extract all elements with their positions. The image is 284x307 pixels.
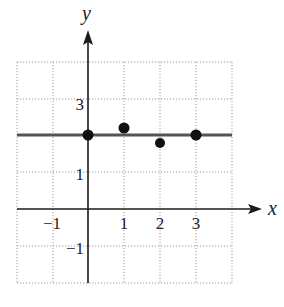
data-point bbox=[119, 123, 130, 134]
x-axis-label: x bbox=[267, 197, 277, 219]
data-point bbox=[191, 130, 202, 141]
x-tick-label: −1 bbox=[43, 214, 61, 233]
y-axis-label: y bbox=[80, 2, 91, 25]
data-point bbox=[83, 130, 94, 141]
x-tick-label: 1 bbox=[120, 214, 129, 233]
grid bbox=[17, 62, 232, 283]
x-axis bbox=[17, 204, 262, 214]
data-point bbox=[155, 138, 165, 148]
y-tick-label: 1 bbox=[76, 165, 85, 184]
y-tick-label: 3 bbox=[76, 95, 85, 114]
y-tick-label: −1 bbox=[66, 239, 84, 258]
y-axis bbox=[83, 30, 93, 283]
x-tick-label: 3 bbox=[192, 214, 201, 233]
x-tick-label: 2 bbox=[156, 214, 165, 233]
chart: −1 1 2 3 3 1 −1 x y bbox=[0, 0, 284, 307]
